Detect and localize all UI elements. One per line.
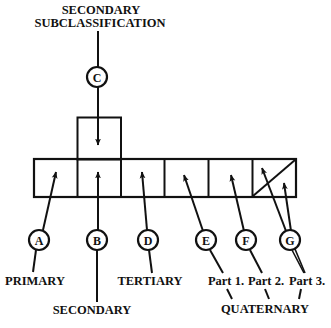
- diagram-svg: SECONDARY SUBCLASSIFICATION C A B D: [0, 0, 331, 328]
- connector-d-tertiary: [149, 250, 152, 273]
- connector-g-part3-b: [295, 249, 305, 273]
- circle-g-letter: G: [285, 234, 294, 248]
- connector-a-primary: [33, 250, 36, 272]
- tertiary-label: TERTIARY: [117, 274, 182, 288]
- circle-f-letter: F: [242, 234, 249, 248]
- circle-d-letter: D: [144, 234, 153, 248]
- circle-f: F: [236, 230, 256, 250]
- circle-a-letter: A: [35, 234, 44, 248]
- connector-part2-quaternary: [265, 289, 269, 299]
- connector-part3-quaternary: [299, 289, 301, 299]
- circle-c: C: [87, 67, 107, 87]
- arrow-e: [184, 175, 203, 231]
- part3-label: Part 3.: [289, 274, 325, 288]
- connector-part1-quaternary: [227, 289, 232, 299]
- circle-b: B: [87, 230, 107, 250]
- circle-a: A: [29, 230, 49, 250]
- circle-g: G: [280, 230, 300, 250]
- arrow-f: [231, 175, 244, 231]
- circle-e-letter: E: [202, 234, 210, 248]
- connector-f-part2: [250, 250, 262, 273]
- arrow-d: [142, 172, 147, 230]
- part1-label: Part 1.: [208, 274, 244, 288]
- subclassification-label: SUBCLASSIFICATION: [34, 16, 165, 30]
- secondary-label-top: SECONDARY: [62, 3, 141, 17]
- classification-diagram: SECONDARY SUBCLASSIFICATION C A B D: [0, 0, 331, 328]
- quaternary-label: QUATERNARY: [221, 302, 309, 316]
- subclassification-box: [78, 118, 122, 160]
- part2-label: Part 2.: [248, 274, 284, 288]
- secondary-label: SECONDARY: [53, 303, 132, 317]
- cell-diagonal-split: [253, 160, 295, 196]
- circle-c-letter: C: [93, 71, 102, 85]
- circle-d: D: [138, 230, 158, 250]
- circle-b-letter: B: [93, 234, 101, 248]
- arrow-a: [43, 172, 56, 230]
- arrow-g-lower: [284, 183, 291, 231]
- connector-g-part3-a: [292, 250, 304, 273]
- circle-e: E: [196, 230, 216, 250]
- code-cells: [34, 159, 296, 197]
- primary-label: PRIMARY: [5, 274, 65, 288]
- connector-e-part1: [210, 250, 223, 273]
